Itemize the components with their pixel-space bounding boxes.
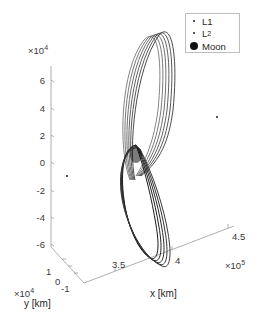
svg-text:6: 6 — [40, 75, 45, 86]
svg-text:0: 0 — [55, 276, 60, 287]
legend: L1 L2 Moon — [185, 13, 240, 53]
l1-marker-icon — [193, 20, 195, 22]
svg-text:-1: -1 — [61, 283, 69, 294]
svg-text:4: 4 — [40, 103, 45, 114]
l2-point-marker — [216, 116, 218, 118]
z-tick-labels: 6 4 2 0 -2 -4 -6 — [37, 75, 45, 250]
svg-text:-4: -4 — [37, 212, 45, 223]
svg-text:3.5: 3.5 — [112, 259, 125, 270]
orbit-family-lower — [120, 145, 170, 267]
y-tick-labels: 1 0 -1 — [46, 266, 69, 294]
x-axis-line — [84, 226, 234, 283]
svg-text:2: 2 — [40, 130, 45, 141]
x-exponent: ×105 — [225, 259, 245, 271]
moon-marker-icon — [190, 42, 198, 50]
orbit-crossing — [130, 147, 142, 163]
svg-text:-6: -6 — [37, 239, 45, 250]
svg-text:0: 0 — [40, 157, 45, 168]
legend-item-moon: Moon — [186, 40, 226, 52]
z-exponent: ×104 — [28, 44, 48, 56]
svg-text:-2: -2 — [37, 185, 45, 196]
y-axis-label: y [km] — [24, 298, 51, 309]
svg-text:4: 4 — [175, 255, 180, 266]
l2-marker-icon — [193, 32, 195, 34]
legend-item-l2: L2 — [186, 27, 211, 39]
z-ticks — [51, 80, 54, 246]
svg-text:4.5: 4.5 — [232, 231, 245, 242]
legend-item-l1: L1 — [186, 15, 213, 27]
svg-text:1: 1 — [46, 266, 51, 277]
l1-point-marker — [66, 175, 68, 177]
x-axis-label: x [km] — [150, 288, 177, 299]
